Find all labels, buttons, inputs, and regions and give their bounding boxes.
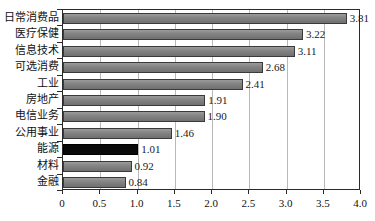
x-axis-tick xyxy=(286,190,287,194)
bar-row: 1.91 xyxy=(63,95,361,106)
bar-row: 1.01 xyxy=(63,144,361,155)
y-axis-tick xyxy=(57,108,62,109)
bar-row: 3.22 xyxy=(63,29,361,40)
bar-value-label: 0.92 xyxy=(135,159,154,173)
x-axis-tick xyxy=(99,190,100,194)
x-axis-tick xyxy=(137,190,138,194)
bar xyxy=(63,161,132,172)
x-axis-tick-label: 4.0 xyxy=(353,196,367,210)
x-axis-tick-label: 1.5 xyxy=(167,196,181,210)
y-axis-tick xyxy=(57,157,62,158)
y-axis-tick xyxy=(57,174,62,175)
category-label: 医疗保健 xyxy=(1,27,59,40)
x-axis-tick-label: 3.0 xyxy=(279,196,293,210)
y-axis-tick xyxy=(57,141,62,142)
bar-value-label: 1.46 xyxy=(175,126,194,140)
category-label: 房地产 xyxy=(1,93,59,106)
category-label: 公用事业 xyxy=(1,126,59,139)
x-axis-tick xyxy=(323,190,324,194)
bar-row: 0.84 xyxy=(63,177,361,188)
bar-row: 1.90 xyxy=(63,111,361,122)
bar xyxy=(63,95,205,106)
category-label: 材料 xyxy=(1,159,59,172)
x-axis-tick-label: 2.5 xyxy=(241,196,255,210)
bar-row: 3.81 xyxy=(63,13,361,24)
x-axis-tick xyxy=(174,190,175,194)
x-axis-tick xyxy=(62,190,63,194)
bar-highlighted xyxy=(63,144,138,155)
y-axis-tick xyxy=(57,91,62,92)
bar xyxy=(63,79,243,90)
bar-row: 0.92 xyxy=(63,161,361,172)
category-label: 金融 xyxy=(1,175,59,188)
bar xyxy=(63,62,263,73)
category-label: 能源 xyxy=(1,142,59,155)
bar-value-label: 1.90 xyxy=(208,109,227,123)
x-axis-tick-label: 0.5 xyxy=(92,196,106,210)
bar-row: 1.46 xyxy=(63,128,361,139)
category-axis-labels: 日常消费品医疗保健信息技术可选消费工业房地产电信业务公用事业能源材料金融 xyxy=(0,9,59,190)
bar-value-label: 3.81 xyxy=(350,11,369,25)
y-axis-tick xyxy=(57,42,62,43)
bar-value-label: 1.91 xyxy=(208,93,227,107)
bar-row: 3.11 xyxy=(63,46,361,57)
category-label: 可选消费 xyxy=(1,60,59,73)
bar xyxy=(63,111,205,122)
category-label: 信息技术 xyxy=(1,44,59,57)
y-axis-tick xyxy=(57,25,62,26)
x-axis-tick-label: 3.5 xyxy=(316,196,330,210)
category-label: 日常消费品 xyxy=(1,11,59,24)
x-axis-tick-label: 0 xyxy=(59,196,65,210)
x-axis-tick-label: 1.0 xyxy=(130,196,144,210)
bar-value-label: 1.01 xyxy=(141,142,160,156)
bar-value-label: 3.11 xyxy=(298,44,317,58)
y-axis-tick xyxy=(57,58,62,59)
bar-value-label: 3.22 xyxy=(306,27,325,41)
bar-row: 2.68 xyxy=(63,62,361,73)
y-axis-tick xyxy=(57,75,62,76)
bar xyxy=(63,128,172,139)
bar-value-label: 2.68 xyxy=(266,60,285,74)
y-axis-tick xyxy=(57,9,62,10)
bar-value-label: 2.41 xyxy=(246,77,265,91)
category-label: 工业 xyxy=(1,77,59,90)
x-axis-tick xyxy=(360,190,361,194)
bar xyxy=(63,13,347,24)
category-label: 电信业务 xyxy=(1,109,59,122)
bar xyxy=(63,46,295,57)
x-axis-tick xyxy=(211,190,212,194)
y-axis-tick xyxy=(57,124,62,125)
plot-area: 3.813.223.112.682.411.911.901.461.010.92… xyxy=(62,9,360,190)
bar-chart: 日常消费品医疗保健信息技术可选消费工业房地产电信业务公用事业能源材料金融 3.8… xyxy=(0,0,375,221)
bar xyxy=(63,29,303,40)
bar xyxy=(63,177,126,188)
bar-row: 2.41 xyxy=(63,79,361,90)
x-axis-tick xyxy=(248,190,249,194)
x-axis-tick-label: 2.0 xyxy=(204,196,218,210)
bar-value-label: 0.84 xyxy=(129,175,148,189)
